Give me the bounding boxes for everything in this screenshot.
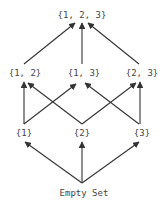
edge-2-to-12 bbox=[28, 83, 82, 124]
edge-12-to-top bbox=[24, 23, 75, 64]
edge-2-to-23 bbox=[82, 83, 136, 124]
node-set-1-3: {1, 3} bbox=[68, 68, 101, 78]
edge-3-to-13 bbox=[85, 83, 139, 124]
node-set-3: {3} bbox=[134, 128, 150, 138]
edge-1-to-13 bbox=[24, 84, 76, 124]
hasse-diagram: {1, 2, 3} {1, 2} {1, 3} {2, 3} {1} {2} {… bbox=[0, 0, 163, 202]
node-set-1: {1} bbox=[16, 128, 32, 138]
node-empty-set: Empty Set bbox=[60, 188, 109, 198]
edge-empty-to-3 bbox=[82, 142, 139, 183]
node-set-2: {2} bbox=[74, 128, 90, 138]
edge-empty-to-1 bbox=[25, 142, 82, 183]
edge-23-to-top bbox=[88, 23, 139, 64]
diagram-svg: {1, 2, 3} {1, 2} {1, 3} {2, 3} {1} {2} {… bbox=[0, 0, 163, 202]
node-top: {1, 2, 3} bbox=[58, 10, 107, 20]
node-set-2-3: {2, 3} bbox=[126, 68, 159, 78]
node-set-1-2: {1, 2} bbox=[9, 68, 42, 78]
